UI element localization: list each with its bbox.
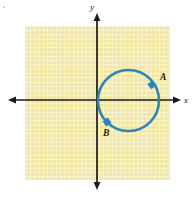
point-b-label: B — [102, 128, 109, 138]
math-figure-coordinate-plane: y x A B a — [0, 0, 192, 197]
diagram-canvas: y x A B a — [0, 0, 192, 197]
y-axis-arrow-up-icon — [94, 13, 101, 21]
corner-mark-label: a — [3, 4, 6, 9]
x-axis-arrow-left-icon — [8, 97, 16, 104]
y-axis-arrow-down-icon — [94, 182, 101, 190]
x-axis-arrow-right-icon — [173, 97, 181, 104]
x-axis-label: x — [183, 95, 188, 105]
y-axis-label: y — [89, 2, 94, 12]
point-a-label: A — [159, 72, 166, 82]
